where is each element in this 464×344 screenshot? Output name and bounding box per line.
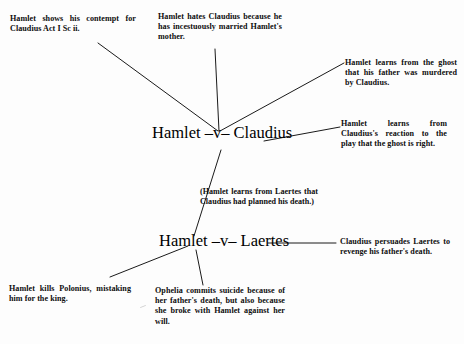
connector-laertes-to-polonius <box>110 246 188 277</box>
note-hates: Hamlet hates Claudius because he has inc… <box>158 12 282 43</box>
note-ghost: Hamlet learns from the ghost that his fa… <box>345 58 457 89</box>
note-contempt: Hamlet shows his contempt for Claudius A… <box>10 14 136 34</box>
hamlet-conflict-diagram: Hamlet shows his contempt for Claudius A… <box>0 0 464 344</box>
note-ophelia: Ophelia commits suicide because of her f… <box>155 286 285 327</box>
note-revenge: Claudius persuades Laertes to revenge hi… <box>340 237 450 257</box>
note-polonius: Hamlet kills Polonius, mistaking him for… <box>9 284 131 304</box>
connector-hates-to-claudius <box>215 49 219 131</box>
node-hamlet-v-laertes: Hamlet –v– Laertes <box>159 232 289 250</box>
connector-laertes-to-ophelia <box>196 250 203 285</box>
connector-claudius-to-ghost <box>220 63 344 131</box>
connector-contempt-to-claudius <box>98 43 218 131</box>
note-play: Hamlet learns from Claudius's reaction t… <box>341 119 447 150</box>
note-laertes-plot: (Hamlet learns from Laertes that Claudiu… <box>200 187 318 207</box>
node-hamlet-v-claudius: Hamlet –v– Claudius <box>152 124 292 142</box>
